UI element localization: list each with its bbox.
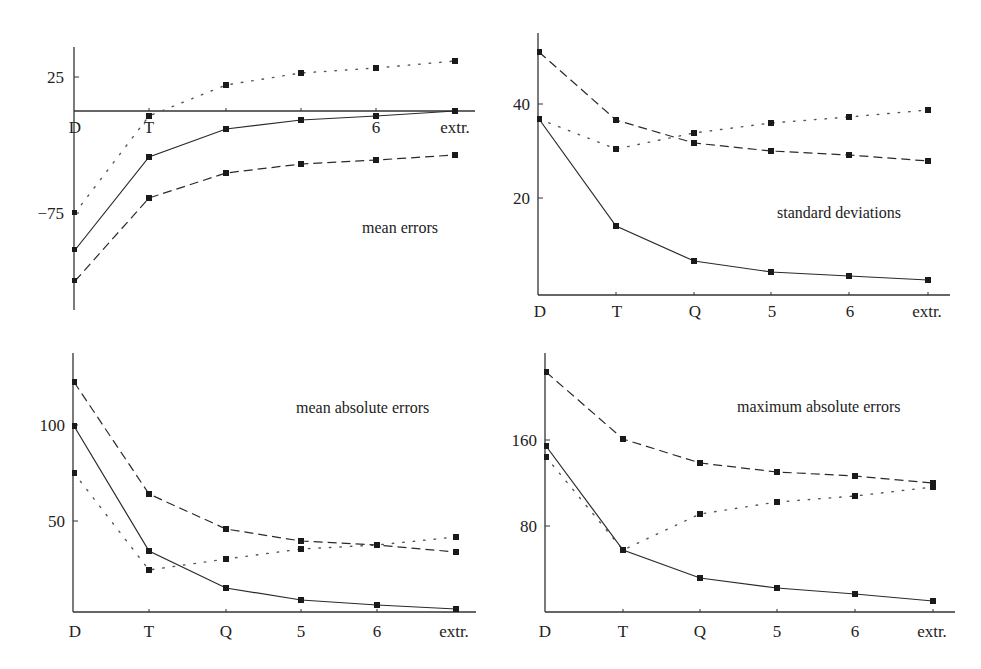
series-dotted: [75, 61, 455, 213]
panel-title: mean absolute errors: [296, 399, 429, 416]
y-tick-label: −75: [37, 204, 64, 223]
y-tick-label: 50: [48, 512, 65, 531]
x-tick-label: D: [534, 302, 546, 321]
x-tick-label: Q: [694, 622, 706, 641]
series-solid: [74, 426, 456, 609]
x-tick-label: extr.: [440, 118, 470, 137]
markers: [72, 58, 458, 283]
markers: [537, 49, 931, 283]
x-tick-label: 6: [373, 622, 382, 641]
series-solid: [539, 119, 928, 280]
x-tick-label: T: [612, 302, 623, 321]
x-tick-label: D: [69, 118, 81, 137]
x-tick-label: Q: [220, 622, 232, 641]
series-dashed: [75, 155, 455, 281]
y-tick-label: 80: [520, 517, 537, 536]
y-tick-label: 100: [40, 416, 66, 435]
series-dotted: [546, 457, 933, 550]
series-dashed: [539, 52, 928, 161]
x-tick-label: T: [618, 622, 629, 641]
x-tick-label: 6: [851, 622, 860, 641]
x-tick-label: T: [144, 622, 155, 641]
x-tick-label: D: [69, 622, 81, 641]
x-tick-label: 6: [372, 118, 381, 137]
y-tick-label: 40: [513, 95, 530, 114]
y-tick-label: 25: [47, 68, 64, 87]
x-tick-label: D: [539, 622, 551, 641]
x-tick-label: 5: [773, 622, 782, 641]
panel-standard-deviations: 40 20 D T Q 5 6 extr. standard deviation…: [513, 33, 950, 321]
y-tick-label: 160: [512, 431, 538, 450]
series-solid: [546, 446, 933, 601]
panel-title: mean errors: [362, 219, 438, 236]
x-tick-label: Q: [689, 302, 701, 321]
panel-mean-errors: 25 −75 D T 6 extr. mean errors: [37, 47, 475, 310]
panel-mean-absolute-errors: 100 50 D T Q 5 6 extr. mean absolute err…: [40, 353, 477, 641]
panel-title: maximum absolute errors: [737, 398, 901, 415]
series-dashed: [546, 372, 933, 483]
x-tick-label: extr.: [439, 622, 469, 641]
figure: 25 −75 D T 6 extr. mean errors 40 20 D T…: [0, 0, 981, 669]
panel-maximum-absolute-errors: 160 80 D T Q 5 6 extr. maximum absolute …: [512, 353, 956, 641]
x-tick-label: 5: [297, 622, 306, 641]
x-tick-label: extr.: [917, 622, 947, 641]
x-tick-label: extr.: [912, 302, 942, 321]
series-dotted: [539, 110, 928, 149]
y-tick-label: 20: [513, 189, 530, 208]
x-tick-label: 6: [846, 302, 855, 321]
panel-title: standard deviations: [777, 204, 901, 221]
x-tick-label: 5: [768, 302, 777, 321]
